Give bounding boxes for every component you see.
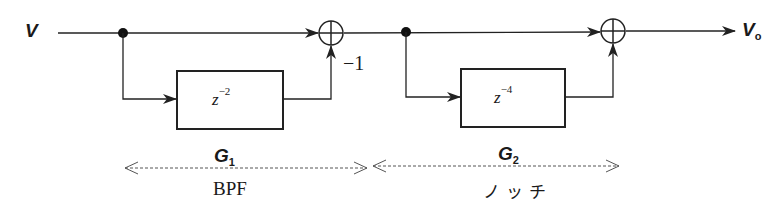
delay-block-2: [461, 69, 565, 127]
block-diagram: [0, 0, 769, 213]
span-arrow-g2: [373, 160, 619, 172]
branch-1-to-delay: [123, 33, 176, 99]
output-signal-label: Vo: [742, 19, 761, 42]
summer-2-icon: [601, 19, 625, 43]
input-signal-label: V: [25, 20, 38, 42]
summer-1-gain-label: −1: [343, 52, 364, 75]
span-arrow-g1: [125, 162, 367, 174]
branch-2-to-delay: [406, 32, 460, 97]
main-line-mid: [344, 32, 600, 33]
delay-block-1-label: z−2: [212, 88, 230, 110]
stage-2-name: G2: [498, 143, 519, 166]
branch-2-to-summer: [565, 44, 613, 97]
stage-1-description: BPF: [213, 178, 247, 200]
stage-2-description: ノッチ: [483, 178, 552, 203]
delay-block-2-label: z−4: [494, 86, 512, 108]
stage-1-name: G1: [214, 145, 235, 168]
branch-1-to-summer: [283, 46, 331, 99]
summer-1-icon: [319, 21, 343, 45]
